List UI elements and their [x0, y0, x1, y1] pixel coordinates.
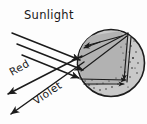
rainbow-raindrop-figure: Sunlight Red Violet [0, 0, 147, 124]
label-red: Red [7, 57, 31, 78]
label-sunlight: Sunlight [24, 8, 74, 22]
raindrop-dispersion-diagram: Sunlight Red Violet [0, 0, 147, 124]
label-violet: Violet [30, 79, 63, 107]
raindrop-inner-region [78, 31, 128, 86]
